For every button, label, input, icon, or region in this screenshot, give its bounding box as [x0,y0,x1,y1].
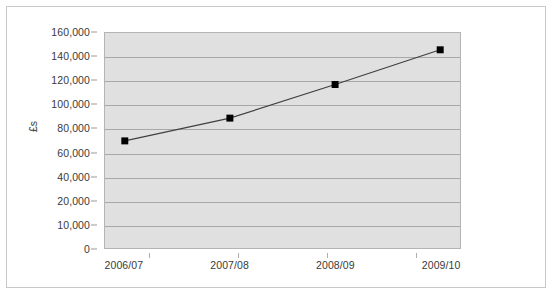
series-line-markers [105,33,460,249]
data-point-marker [121,137,128,144]
y-axis-tick-label: 10,000 [57,219,90,231]
y-axis-tick-labels: 160,000140,000120,000100,00080,00060,000… [7,32,100,249]
x-axis-tick-labels: 2006/072007/082008/092009/10 [104,253,461,277]
y-axis-tick-label: 100,000 [51,98,90,110]
y-axis-tick-label: 40,000 [57,171,90,183]
y-axis-tick-mark [91,176,97,177]
y-axis-tick-mark [91,80,97,81]
x-axis-tick-mark [238,253,239,258]
plot-area [104,32,461,249]
chart-frame: £s 160,000140,000120,000100,00080,00060,… [6,6,546,288]
y-axis-tick-label: 160,000 [51,26,90,38]
x-axis-tick-label: 2006/07 [105,259,144,271]
x-axis-tick-label: 2009/10 [422,259,461,271]
data-point-marker [332,81,339,88]
x-axis-tick-label: 2007/08 [210,259,249,271]
data-point-marker [226,115,233,122]
x-axis-tick-mark [416,253,417,258]
y-axis-tick-mark [91,104,97,105]
data-point-marker [437,46,444,53]
y-axis-tick-label: 120,000 [51,74,90,86]
y-axis-tick-mark [91,128,97,129]
y-axis-tick-mark [91,224,97,225]
y-axis-tick-label: 20,000 [57,195,90,207]
y-axis-tick-label: 140,000 [51,50,90,62]
y-axis-tick-mark [91,32,97,33]
x-axis-tick-mark [149,253,150,258]
y-axis-tick-label: 0 [84,243,90,255]
x-axis-tick-label: 2008/09 [316,259,355,271]
y-axis-tick-mark [91,200,97,201]
y-axis-tick-label: 60,000 [57,147,90,159]
x-axis-tick-mark [327,253,328,258]
y-axis-tick-mark [91,152,97,153]
y-axis-tick-label: 80,000 [57,122,90,134]
y-axis-tick-mark [91,249,97,250]
series-line [125,50,440,141]
y-axis-tick-mark [91,56,97,57]
